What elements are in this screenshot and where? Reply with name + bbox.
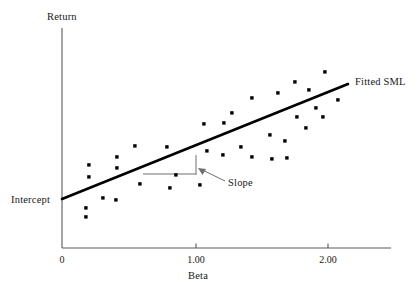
chart-figure: Return Beta Intercept Fitted SML Slope 0… (0, 0, 418, 297)
data-point (138, 182, 141, 185)
data-point (323, 70, 326, 73)
slope-pointer-line (202, 170, 226, 182)
data-point (276, 91, 279, 94)
data-point (114, 198, 117, 201)
slope-label: Slope (228, 177, 253, 188)
data-point (168, 186, 171, 189)
x-tick-label-2: 2.00 (319, 254, 337, 265)
data-point (230, 111, 233, 114)
axes-group (62, 28, 391, 248)
data-point (221, 153, 224, 156)
scatter-markers (84, 70, 339, 218)
data-point (307, 88, 310, 91)
data-point (314, 106, 317, 109)
data-point (205, 149, 208, 152)
data-point (115, 166, 118, 169)
data-point (174, 173, 177, 176)
x-tick-label-0: 0 (60, 254, 65, 265)
data-point (202, 122, 205, 125)
data-point (283, 139, 286, 142)
data-point (268, 133, 271, 136)
data-point (87, 175, 90, 178)
data-point (84, 215, 87, 218)
data-point (321, 115, 324, 118)
data-point (165, 145, 168, 148)
data-point (285, 156, 288, 159)
data-point (304, 126, 307, 129)
data-point (270, 157, 273, 160)
fitted-sml-line (62, 84, 348, 199)
data-point (293, 80, 296, 83)
data-point (250, 155, 253, 158)
slope-triangle (143, 155, 197, 175)
data-point (295, 115, 298, 118)
x-tick-label-1: 1.00 (187, 254, 205, 265)
data-point (84, 206, 87, 209)
data-point (115, 155, 118, 158)
intercept-label: Intercept (11, 194, 50, 205)
y-axis-label: Return (47, 11, 77, 22)
x-axis-label: Beta (188, 270, 208, 281)
scatter-plot-svg (0, 0, 418, 297)
data-point (101, 196, 104, 199)
slope-pointer (198, 168, 225, 181)
data-point (239, 145, 242, 148)
data-point (133, 144, 136, 147)
data-point (336, 98, 339, 101)
data-point (222, 121, 225, 124)
data-point (250, 96, 253, 99)
fitted-sml-label: Fitted SML (355, 76, 406, 87)
data-point (198, 183, 201, 186)
data-point (87, 163, 90, 166)
